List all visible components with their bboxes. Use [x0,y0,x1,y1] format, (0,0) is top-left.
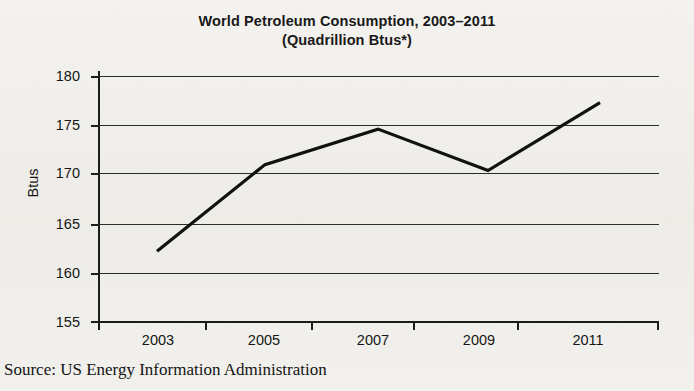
x-axis-labels: 2003 2005 2007 2009 2011 [0,332,694,354]
plot-area [98,76,659,322]
gridline-165 [98,224,659,225]
chart-page: World Petroleum Consumption, 2003–2011 (… [0,0,694,391]
x-tick-label-2009: 2009 [463,332,495,348]
gridline-160 [98,273,659,274]
x-tick-1 [205,322,207,330]
x-tick-label-2003: 2003 [142,332,174,348]
gridline-170 [98,173,659,174]
y-tick-175 [91,125,99,127]
x-axis-line [98,321,659,323]
gridline-175 [98,125,659,126]
chart-title: World Petroleum Consumption, 2003–2011 [0,12,694,31]
x-tick-label-2011: 2011 [572,332,603,348]
y-tick-165 [91,224,99,226]
gridline-180 [98,76,659,77]
x-tick-0 [98,322,100,330]
y-tick-160 [91,273,99,275]
x-tick-4 [517,322,519,330]
chart-subtitle: (Quadrillion Btus*) [0,31,694,50]
x-tick-5 [657,322,659,330]
y-axis-labels: 180 175 170 165 160 155 [0,76,90,326]
y-tick-170 [91,173,99,175]
y-tick-label-155: 155 [56,314,80,330]
x-tick-label-2005: 2005 [248,332,280,348]
chart-title-block: World Petroleum Consumption, 2003–2011 (… [0,12,694,50]
y-tick-label-175: 175 [56,117,80,133]
source-note: Source: US Energy Information Administra… [4,360,327,380]
y-tick-label-180: 180 [56,68,80,84]
x-tick-3 [413,322,415,330]
y-tick-label-160: 160 [56,265,80,281]
x-tick-2 [311,322,313,330]
y-tick-label-170: 170 [56,165,80,181]
x-tick-label-2007: 2007 [357,332,389,348]
y-tick-label-165: 165 [56,216,80,232]
y-axis-line [98,71,100,327]
y-tick-180 [91,76,99,78]
